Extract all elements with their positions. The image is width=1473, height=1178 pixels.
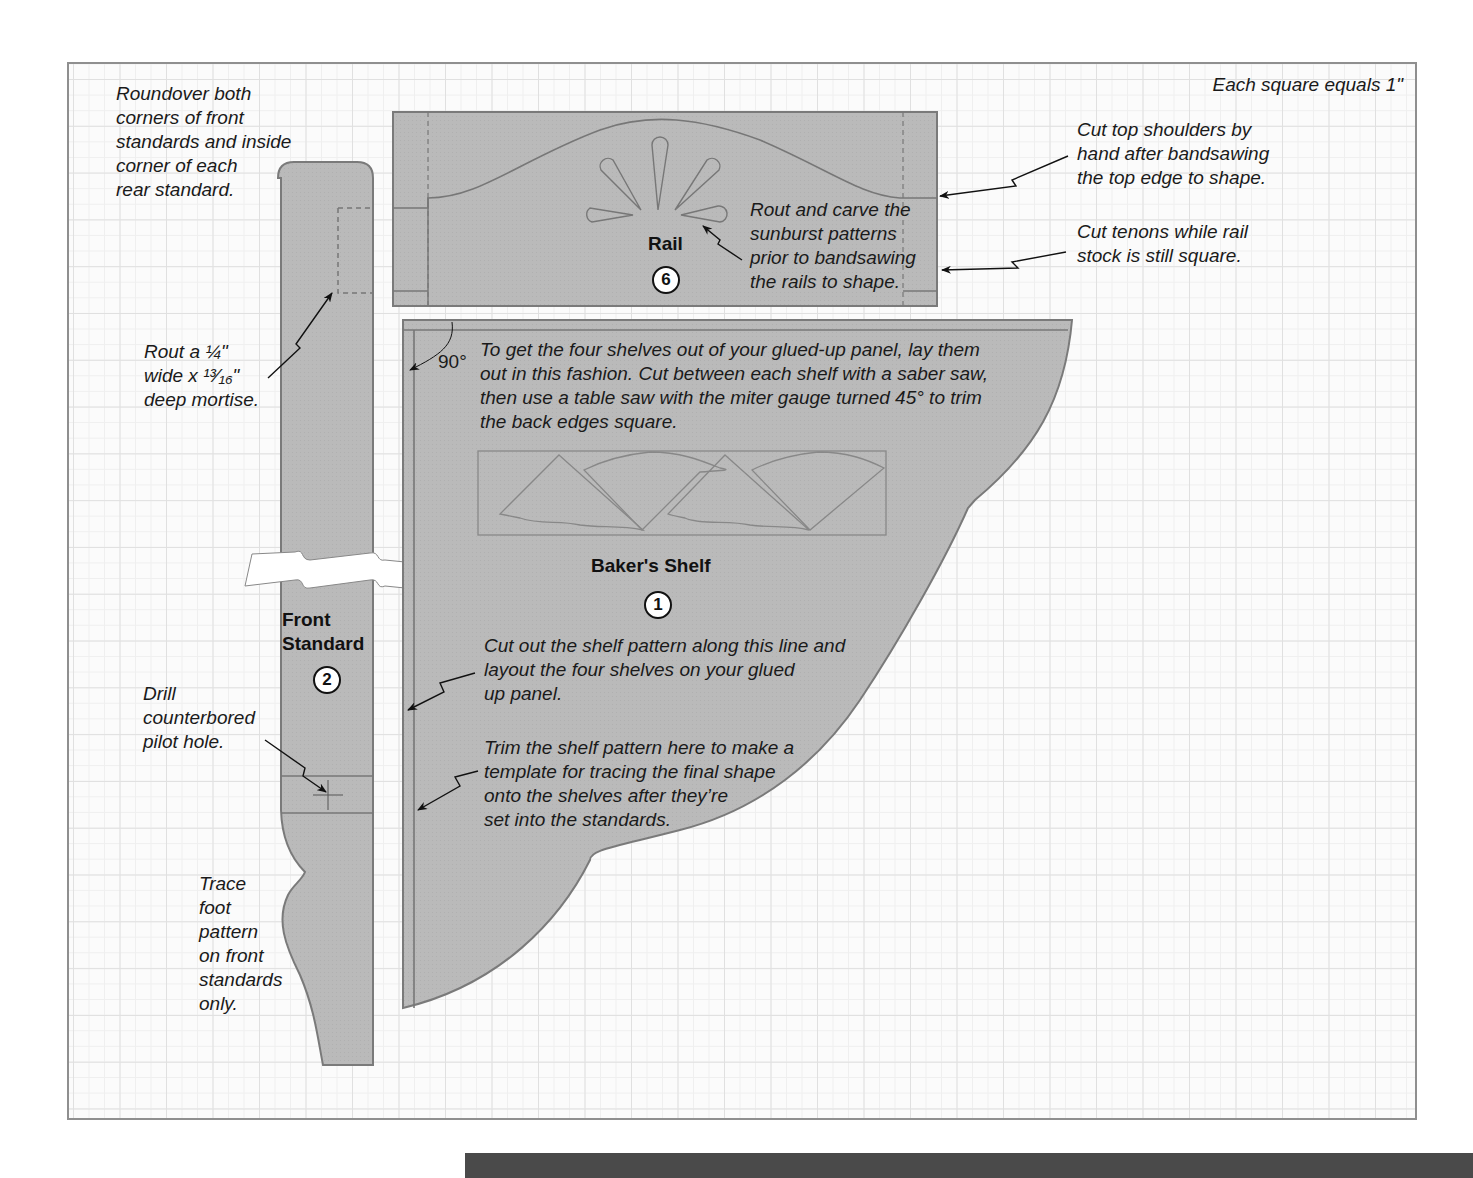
page-footer-bar	[465, 1153, 1473, 1178]
sunburst-note: Rout and carve the sunburst patterns pri…	[750, 198, 916, 294]
roundover-note: Roundover both corners of front standard…	[116, 82, 291, 202]
tenons-note: Cut tenons while rail stock is still squ…	[1077, 220, 1248, 268]
rail-label: Rail	[648, 232, 683, 256]
scale-note: Each square equals 1"	[1212, 74, 1403, 96]
layout-note: To get the four shelves out of your glue…	[480, 338, 988, 434]
bakers-shelf-part-number: 1	[644, 591, 672, 619]
mortise-note: Rout a ¼" wide x ¹³⁄₁₆" deep mortise.	[144, 340, 259, 412]
trace-foot-note: Trace foot pattern on front standards on…	[199, 872, 282, 1016]
angle-dimension: 90°	[438, 350, 467, 374]
bakers-shelf-label: Baker's Shelf	[591, 554, 711, 578]
rail-part-number: 6	[652, 266, 680, 294]
front-standard-label: Front Standard	[282, 608, 364, 656]
shoulders-note: Cut top shoulders by hand after bandsawi…	[1077, 118, 1269, 190]
cut-out-note: Cut out the shelf pattern along this lin…	[484, 634, 845, 706]
drill-note: Drill counterbored pilot hole.	[143, 682, 255, 754]
trim-note: Trim the shelf pattern here to make a te…	[484, 736, 794, 832]
front-standard-part-number: 2	[313, 666, 341, 694]
